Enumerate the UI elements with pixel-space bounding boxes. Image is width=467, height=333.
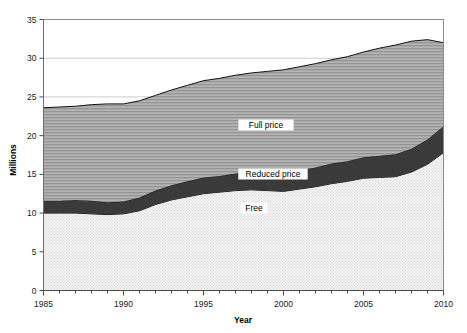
y-tick-label-0: 0 — [32, 286, 37, 296]
x-tick-label-1985: 1985 — [34, 299, 53, 309]
y-tick-label-5: 5 — [32, 247, 37, 257]
x-tick-label-2000: 2000 — [274, 299, 293, 309]
y-tick-label-20: 20 — [27, 131, 37, 141]
x-tick-label-2010: 2010 — [434, 299, 453, 309]
stacked-area-chart: 05101520253035 198519901995200020052010 … — [0, 0, 467, 333]
x-tick-label-2005: 2005 — [354, 299, 373, 309]
x-tick-label-1990: 1990 — [114, 299, 133, 309]
y-tick-label-35: 35 — [27, 15, 37, 25]
label-free: Free — [245, 203, 263, 213]
y-tick-label-15: 15 — [27, 169, 37, 179]
x-axis-title: Year — [234, 315, 253, 325]
label-reduced-price: Reduced price — [246, 169, 301, 179]
chart-canvas: 05101520253035 198519901995200020052010 … — [0, 0, 467, 333]
x-tick-label-1995: 1995 — [194, 299, 213, 309]
y-tick-label-25: 25 — [27, 92, 37, 102]
y-axis-title: Millions — [8, 144, 18, 176]
label-full-price: Full price — [249, 120, 284, 130]
y-tick-label-30: 30 — [27, 53, 37, 63]
y-tick-label-10: 10 — [27, 208, 37, 218]
